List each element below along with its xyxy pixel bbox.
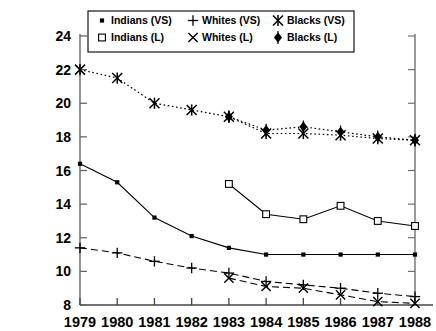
data-point-marker xyxy=(78,162,82,166)
data-point-marker xyxy=(301,252,305,256)
x-axis-tick-label: 1981 xyxy=(138,314,170,330)
data-point-marker xyxy=(152,215,156,219)
y-axis-tick-label: 12 xyxy=(55,230,71,246)
legend-item-label: Blacks (VS) xyxy=(287,14,345,26)
x-axis-tick-label: 1982 xyxy=(176,314,208,330)
x-axis-tick-label: 1985 xyxy=(287,314,319,330)
y-axis-tick-label: 18 xyxy=(55,129,71,145)
legend-item-label: Whites (L) xyxy=(202,31,253,43)
y-axis-tick-label: 22 xyxy=(55,62,71,78)
data-point-marker xyxy=(376,252,380,256)
data-point-marker xyxy=(338,252,342,256)
x-axis-tick-label: 1979 xyxy=(64,314,96,330)
y-axis-tick-label: 24 xyxy=(55,28,71,44)
data-point-marker xyxy=(115,180,119,184)
y-axis-tick-label: 10 xyxy=(55,263,71,279)
y-axis-tick-label: 16 xyxy=(55,163,71,179)
data-point-marker xyxy=(300,216,307,223)
legend-item-label: Whites (VS) xyxy=(202,14,260,26)
data-point-marker xyxy=(190,234,194,238)
data-point-marker xyxy=(225,181,232,188)
data-point-marker xyxy=(337,202,344,209)
data-point-marker xyxy=(263,211,270,218)
data-point-marker xyxy=(99,34,106,41)
legend-item-label: Indians (VS) xyxy=(111,14,172,26)
y-axis-tick-label: 8 xyxy=(63,297,71,313)
data-point-marker xyxy=(374,218,381,225)
x-axis-tick-label: 1983 xyxy=(213,314,245,330)
data-point-marker xyxy=(412,223,419,230)
y-axis-tick-label: 14 xyxy=(55,196,71,212)
x-axis-tick-label: 1988 xyxy=(399,314,431,330)
chart-container: 8101214161820222419791980198119821983198… xyxy=(0,0,436,331)
data-point-marker xyxy=(100,18,104,22)
chart-legend: Indians (VS)Whites (VS)Blacks (VS)Indian… xyxy=(88,11,354,52)
x-axis-tick-label: 1986 xyxy=(324,314,356,330)
x-axis-tick-label: 1980 xyxy=(101,314,133,330)
data-point-marker xyxy=(227,246,231,250)
line-chart: 8101214161820222419791980198119821983198… xyxy=(0,0,436,331)
y-axis-tick-label: 20 xyxy=(55,95,71,111)
x-axis-tick-label: 1984 xyxy=(250,314,282,330)
x-axis-tick-label: 1987 xyxy=(362,314,394,330)
legend-item: Indians (VS) xyxy=(100,14,172,26)
data-point-marker xyxy=(264,252,268,256)
data-point-marker xyxy=(413,252,417,256)
legend-item-label: Indians (L) xyxy=(111,31,164,43)
legend-item-label: Blacks (L) xyxy=(287,31,337,43)
